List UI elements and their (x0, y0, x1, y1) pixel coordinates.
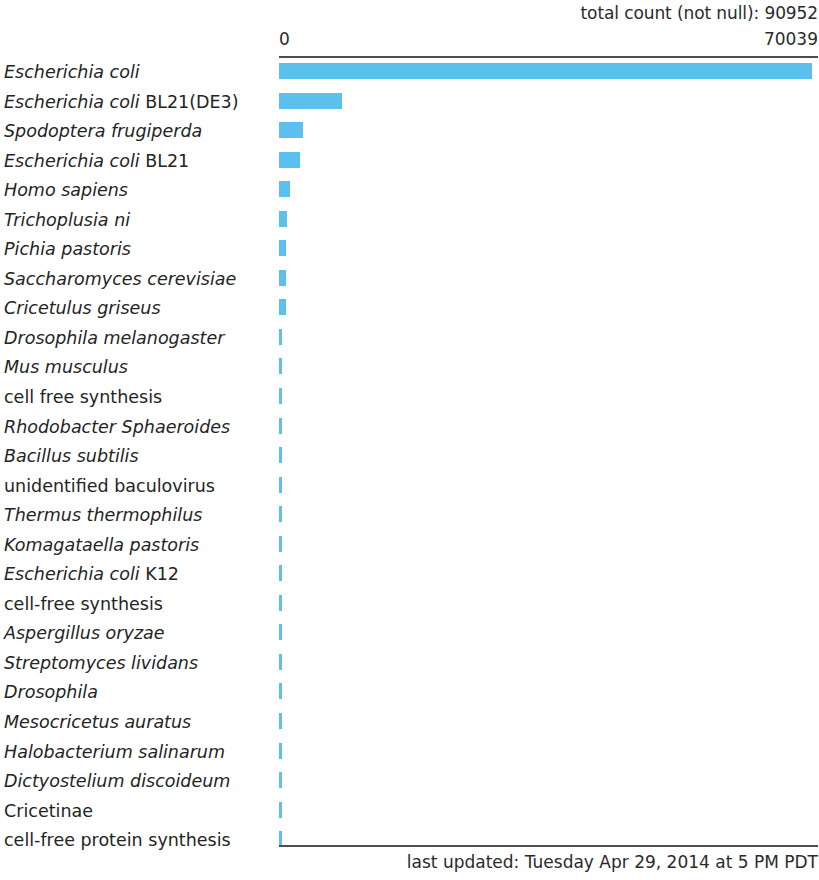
bar[interactable] (279, 683, 282, 699)
bar[interactable] (279, 418, 282, 434)
bar-row[interactable]: Escherichia coli BL21(DE3) (0, 88, 819, 118)
bar-row[interactable]: Cricetulus griseus (0, 294, 819, 324)
bar-row[interactable]: Escherichia coli (0, 58, 819, 88)
bar-row[interactable]: Escherichia coli K12 (0, 560, 819, 590)
bar-row-label: Thermus thermophilus (4, 501, 202, 531)
bar[interactable] (279, 624, 282, 640)
bar[interactable] (279, 270, 286, 286)
bar-track (279, 767, 818, 797)
bar-row-label: Halobacterium salinarum (4, 738, 225, 768)
bar-row-label: Mesocricetus auratus (4, 708, 191, 738)
bar[interactable] (279, 240, 286, 256)
bar-row[interactable]: Halobacterium salinarum (0, 738, 819, 768)
bar[interactable] (279, 802, 282, 818)
bar[interactable] (279, 181, 290, 197)
bar-row[interactable]: Pichia pastoris (0, 235, 819, 265)
bar-track (279, 265, 818, 295)
bar-row[interactable]: cell-free synthesis (0, 590, 819, 620)
bar-row-label: Aspergillus oryzae (4, 619, 165, 649)
bar[interactable] (279, 447, 282, 463)
bar-row-label: Trichoplusia ni (4, 206, 130, 236)
bar-track (279, 442, 818, 472)
bar-row-label: Dictyostelium discoideum (4, 767, 230, 797)
bar-track (279, 560, 818, 590)
bar-rows-container: Escherichia coliEscherichia coli BL21(DE… (0, 58, 819, 856)
bar[interactable] (279, 358, 282, 374)
bar-row-label: Rhodobacter Sphaeroides (4, 413, 230, 443)
bar[interactable] (279, 565, 282, 581)
bar-row-label: Homo sapiens (4, 176, 128, 206)
bar[interactable] (279, 595, 282, 611)
bar-track (279, 413, 818, 443)
bar-track (279, 88, 818, 118)
bar[interactable] (279, 477, 282, 493)
bar-row-label: Bacillus subtilis (4, 442, 139, 472)
bar-row-label: Pichia pastoris (4, 235, 131, 265)
bar-row[interactable]: cell free synthesis (0, 383, 819, 413)
axis-min-tick-label: 0 (279, 29, 290, 49)
bar-track (279, 383, 818, 413)
bar-row-label: Komagataella pastoris (4, 531, 199, 561)
bar-row[interactable]: Komagataella pastoris (0, 531, 819, 561)
bar-row[interactable]: unidentified baculovirus (0, 472, 819, 502)
bar-row[interactable]: Dictyostelium discoideum (0, 767, 819, 797)
bar-row[interactable]: Saccharomyces cerevisiae (0, 265, 819, 295)
bar[interactable] (279, 122, 303, 138)
bar-row[interactable]: Streptomyces lividans (0, 649, 819, 679)
bar-row[interactable]: Escherichia coli BL21 (0, 147, 819, 177)
bar-track (279, 531, 818, 561)
bar[interactable] (279, 713, 282, 729)
bar-row-label: Escherichia coli (4, 58, 140, 88)
bar-track (279, 649, 818, 679)
bar-row[interactable]: Aspergillus oryzae (0, 619, 819, 649)
chart-header: total count (not null): 90952 0 70039 (0, 0, 819, 58)
bar-track (279, 353, 818, 383)
bar-row[interactable]: Drosophila melanogaster (0, 324, 819, 354)
bar-row-label: Drosophila melanogaster (4, 324, 224, 354)
bar-row-label: unidentified baculovirus (4, 472, 215, 502)
bar-row[interactable]: Homo sapiens (0, 176, 819, 206)
bar-track (279, 590, 818, 620)
last-updated-label: last updated: Tuesday Apr 29, 2014 at 5 … (407, 852, 818, 872)
bar-track (279, 117, 818, 147)
bar[interactable] (279, 152, 300, 168)
bar-track (279, 206, 818, 236)
bar-row-label: Drosophila (4, 678, 98, 708)
bar-track (279, 324, 818, 354)
bar-track (279, 678, 818, 708)
bar-row[interactable]: Drosophila (0, 678, 819, 708)
bar-row-label-strain: BL21 (140, 151, 190, 171)
bar-row-label: cell free synthesis (4, 383, 162, 413)
bar-track (279, 472, 818, 502)
bar[interactable] (279, 388, 282, 404)
bar[interactable] (279, 329, 282, 345)
bar-row[interactable]: Mesocricetus auratus (0, 708, 819, 738)
axis-bottom-rule (279, 845, 818, 847)
bar[interactable] (279, 743, 282, 759)
bar-row[interactable]: Cricetinae (0, 797, 819, 827)
bar-row-label: Spodoptera frugiperda (4, 117, 202, 147)
bar-row-label: Mus musculus (4, 353, 128, 383)
bar-row[interactable]: Rhodobacter Sphaeroides (0, 413, 819, 443)
bar[interactable] (279, 654, 282, 670)
bar[interactable] (279, 211, 287, 227)
bar-row[interactable]: Spodoptera frugiperda (0, 117, 819, 147)
bar-track (279, 708, 818, 738)
bar-row[interactable]: Bacillus subtilis (0, 442, 819, 472)
bar-track (279, 501, 818, 531)
axis-max-tick-label: 70039 (764, 29, 818, 49)
bar-row-label: Cricetinae (4, 797, 93, 827)
bar[interactable] (279, 63, 812, 79)
bar[interactable] (279, 772, 282, 788)
bar-track (279, 176, 818, 206)
bar-row-label: Saccharomyces cerevisiae (4, 265, 236, 295)
bar[interactable] (279, 93, 342, 109)
bar[interactable] (279, 506, 282, 522)
bar[interactable] (279, 299, 286, 315)
bar[interactable] (279, 536, 282, 552)
bar-row[interactable]: Trichoplusia ni (0, 206, 819, 236)
bar-track (279, 58, 818, 88)
bar-row[interactable]: Mus musculus (0, 353, 819, 383)
bar-row-label-strain: K12 (140, 564, 179, 584)
bar-row[interactable]: Thermus thermophilus (0, 501, 819, 531)
